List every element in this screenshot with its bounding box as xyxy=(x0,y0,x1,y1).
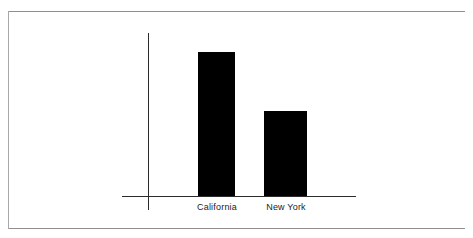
bar-california xyxy=(198,52,235,196)
x-tick-label-california: California xyxy=(186,201,248,213)
x-tick-label-new-york: New York xyxy=(254,201,318,213)
x-axis-line xyxy=(122,196,356,197)
chart-screenshot: California New York xyxy=(0,0,473,238)
bar-chart-plot: California New York xyxy=(0,0,473,238)
bar-new-york xyxy=(264,111,307,196)
y-axis-line xyxy=(148,33,149,210)
